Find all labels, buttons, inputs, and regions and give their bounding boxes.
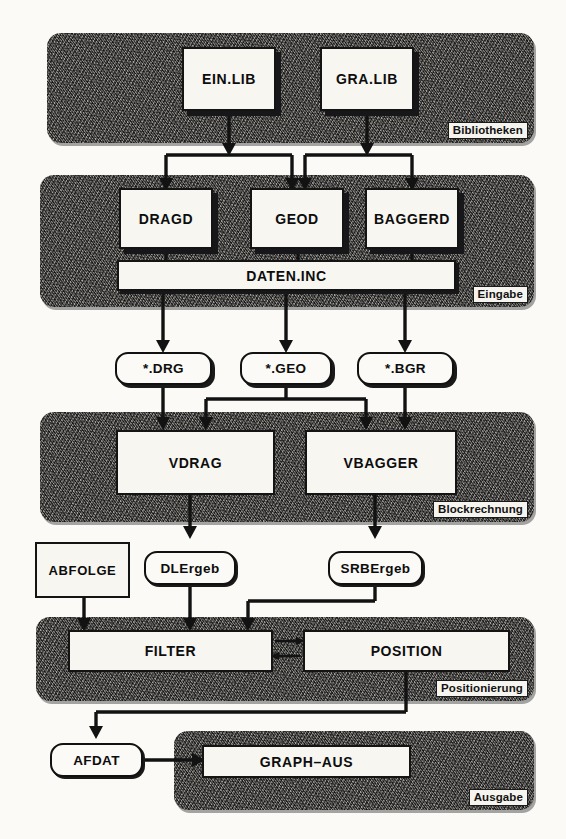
box-gra-lib-label: GRA.LIB (336, 71, 398, 87)
capsule-drg-label: *.DRG (143, 361, 184, 376)
panel-tag-blockrechnung: Blockrechnung (433, 501, 528, 518)
box-geod-label: GEOD (275, 211, 319, 227)
box-gra-lib[interactable]: GRA.LIB (320, 47, 414, 111)
capsule-srbergeb-label: SRBErgeb (341, 561, 411, 576)
capsule-geo[interactable]: *.GEO (240, 352, 332, 385)
diagram-canvas: Bibliotheken Eingabe Blockrechnung Posit… (0, 0, 566, 839)
box-filter[interactable]: FILTER (68, 630, 273, 672)
box-ein-lib-label: EIN.LIB (202, 71, 256, 87)
box-dragd[interactable]: DRAGD (119, 188, 213, 249)
capsule-drg[interactable]: *.DRG (115, 352, 212, 385)
capsule-afdat[interactable]: AFDAT (50, 743, 143, 777)
capsule-geo-label: *.GEO (265, 361, 306, 376)
box-dragd-label: DRAGD (139, 211, 193, 227)
box-graph-aus-label: GRAPH–AUS (260, 754, 353, 770)
box-ein-lib[interactable]: EIN.LIB (182, 47, 276, 111)
capsule-srbergeb[interactable]: SRBErgeb (328, 551, 423, 585)
box-abfolge[interactable]: ABFOLGE (35, 542, 130, 598)
box-abfolge-label: ABFOLGE (49, 563, 117, 578)
panel-tag-positionierung: Positionierung (436, 680, 528, 697)
box-daten-inc-label: DATEN.INC (246, 268, 327, 284)
box-vdrag[interactable]: VDRAG (116, 430, 275, 495)
box-graph-aus[interactable]: GRAPH–AUS (202, 745, 411, 778)
capsule-bgr-label: *.BGR (385, 361, 426, 376)
box-baggerd-label: BAGGERD (374, 211, 450, 227)
panel-tag-ausgabe: Ausgabe (469, 789, 528, 806)
capsule-dlergeb[interactable]: DLErgeb (144, 551, 236, 585)
capsule-bgr[interactable]: *.BGR (357, 352, 454, 385)
box-baggerd[interactable]: BAGGERD (365, 188, 459, 249)
capsule-afdat-label: AFDAT (73, 753, 120, 768)
box-geod[interactable]: GEOD (250, 188, 344, 249)
panel-bibliotheken: Bibliotheken (47, 33, 534, 143)
panel-tag-bibliotheken: Bibliotheken (448, 122, 528, 139)
box-daten-inc[interactable]: DATEN.INC (117, 260, 456, 291)
box-position-label: POSITION (371, 643, 443, 659)
box-filter-label: FILTER (145, 643, 197, 659)
box-vdrag-label: VDRAG (169, 455, 223, 471)
panel-tag-eingabe: Eingabe (473, 286, 528, 303)
box-vbagger[interactable]: VBAGGER (305, 430, 457, 495)
capsule-dlergeb-label: DLErgeb (160, 561, 219, 576)
box-vbagger-label: VBAGGER (344, 455, 419, 471)
box-position[interactable]: POSITION (303, 630, 510, 672)
panel-blockrechnung: Blockrechnung (40, 412, 534, 522)
